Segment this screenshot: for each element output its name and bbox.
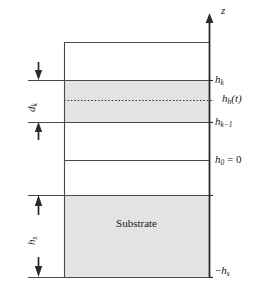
- z-axis-arrowhead: [206, 13, 214, 23]
- label-h-0: h0 = 0: [215, 154, 241, 167]
- d-k-lower-arrowhead: [35, 122, 42, 132]
- substrate-shading: [64, 195, 209, 277]
- layered-stack-diagram: z hk hh(t) hk−1 h0 = 0 −hs dk hs Substra…: [0, 0, 269, 289]
- substrate-label: Substrate: [64, 218, 209, 229]
- label-h-h-t: hh(t): [222, 93, 242, 106]
- z-axis-label: z: [221, 5, 225, 16]
- d-k-upper-arrowhead: [35, 70, 42, 80]
- label-h-k: hk: [215, 74, 224, 87]
- h-s-upper-arrowhead: [35, 195, 42, 206]
- label-h-s: hs: [26, 237, 39, 245]
- label-minus-h-s: −hs: [215, 265, 230, 278]
- h-s-lower-arrowhead: [35, 266, 42, 277]
- label-h-k-minus-1: hk−1: [215, 116, 233, 129]
- diagram-canvas: [0, 0, 269, 289]
- dimension-arrow-d-k: [35, 62, 42, 140]
- label-d-k: dk: [26, 103, 39, 112]
